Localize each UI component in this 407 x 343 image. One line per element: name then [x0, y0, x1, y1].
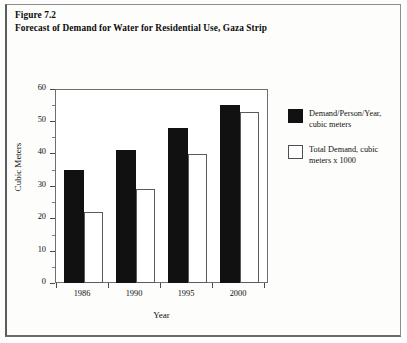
bar-total-demand-1986: [84, 212, 103, 283]
y-minor-tick: [52, 170, 55, 171]
bar-demand-per-person-1995: [168, 128, 188, 283]
bar-groups: [56, 89, 267, 283]
legend-label-line2: meters x 1000: [309, 156, 356, 165]
y-tick-label-60: 60: [38, 83, 46, 92]
legend-item-demand-per-person: Demand/Person/Year, cubic meters: [288, 108, 400, 134]
legend-label-line1: Demand/Person/Year,: [309, 109, 381, 118]
x-tick: [108, 283, 109, 288]
bar-chart: Cubic Meters 60 50 40 30 20 10 0: [0, 0, 407, 343]
x-axis-label-1990: 1990: [108, 289, 160, 298]
y-tick-mark: [50, 153, 55, 154]
bar-group-2000: [220, 89, 260, 283]
legend-label-demand-per-person: Demand/Person/Year, cubic meters: [309, 108, 400, 130]
bar-total-demand-2000: [240, 112, 259, 283]
y-tick-10: 10: [0, 251, 55, 252]
y-tick-label-10: 10: [38, 245, 46, 254]
y-minor-tick: [52, 235, 55, 236]
y-tick-0: 0: [0, 283, 55, 284]
y-tick-label-20: 20: [38, 212, 46, 221]
bar-demand-per-person-1986: [64, 170, 84, 283]
y-tick-mark: [50, 186, 55, 187]
y-tick-mark: [50, 218, 55, 219]
legend-label-line2: cubic meters: [309, 120, 351, 129]
bar-demand-per-person-2000: [220, 105, 240, 283]
y-tick-label-30: 30: [38, 180, 46, 189]
y-tick-mark: [50, 283, 55, 284]
x-axis-label-1986: 1986: [56, 289, 108, 298]
y-tick-mark: [50, 89, 55, 90]
x-tick: [56, 283, 57, 288]
x-axis-label-1995: 1995: [160, 289, 212, 298]
filled-black-swatch-icon: [288, 109, 303, 123]
chart-legend: Demand/Person/Year, cubic meters Total D…: [288, 108, 400, 180]
bar-group-1990: [116, 89, 156, 283]
legend-label-line1: Total Demand, cubic: [309, 145, 378, 154]
x-tick: [212, 283, 213, 288]
bar-demand-per-person-1990: [116, 150, 136, 283]
y-tick-label-40: 40: [38, 147, 46, 156]
y-tick-40: 40: [0, 153, 55, 154]
bar-group-1986: [64, 89, 104, 283]
figure-page: Figure 7.2 Forecast of Demand for Water …: [0, 0, 407, 343]
y-minor-tick: [52, 202, 55, 203]
x-axis-label-2000: 2000: [212, 289, 264, 298]
y-minor-tick: [52, 137, 55, 138]
x-axis-title: Year: [55, 310, 268, 320]
bar-group-1995: [168, 89, 208, 283]
legend-item-total-demand: Total Demand, cubic meters x 1000: [288, 144, 400, 170]
y-tick-20: 20: [0, 218, 55, 219]
y-tick-label-50: 50: [38, 115, 46, 124]
y-minor-tick: [52, 105, 55, 106]
outlined-white-swatch-icon: [288, 145, 303, 159]
bar-total-demand-1990: [136, 189, 155, 283]
y-axis-title: Cubic Meters: [13, 132, 23, 202]
y-tick-mark: [50, 121, 55, 122]
x-tick: [264, 283, 265, 288]
y-tick-label-0: 0: [42, 277, 46, 286]
x-tick: [160, 283, 161, 288]
y-minor-tick: [52, 267, 55, 268]
y-tick-50: 50: [0, 121, 55, 122]
y-tick-30: 30: [0, 186, 55, 187]
y-tick-mark: [50, 251, 55, 252]
y-tick-60: 60: [0, 89, 55, 90]
legend-label-total-demand: Total Demand, cubic meters x 1000: [309, 144, 400, 166]
bar-total-demand-1995: [188, 154, 207, 283]
